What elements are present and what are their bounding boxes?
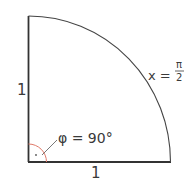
arc-length-numerator: π [176, 59, 182, 70]
angle-leader-line [42, 140, 57, 155]
horizontal-radius-label: 1 [91, 164, 101, 180]
arc-length-denominator: 2 [176, 72, 182, 83]
angle-label: φ = 90° [58, 130, 113, 146]
vertical-radius-label: 1 [17, 81, 27, 99]
arc-length-label: x = [148, 68, 171, 83]
quarter-circle-diagram: 1 1 x = π 2 φ = 90° [0, 0, 186, 180]
angle-dot [35, 154, 37, 156]
